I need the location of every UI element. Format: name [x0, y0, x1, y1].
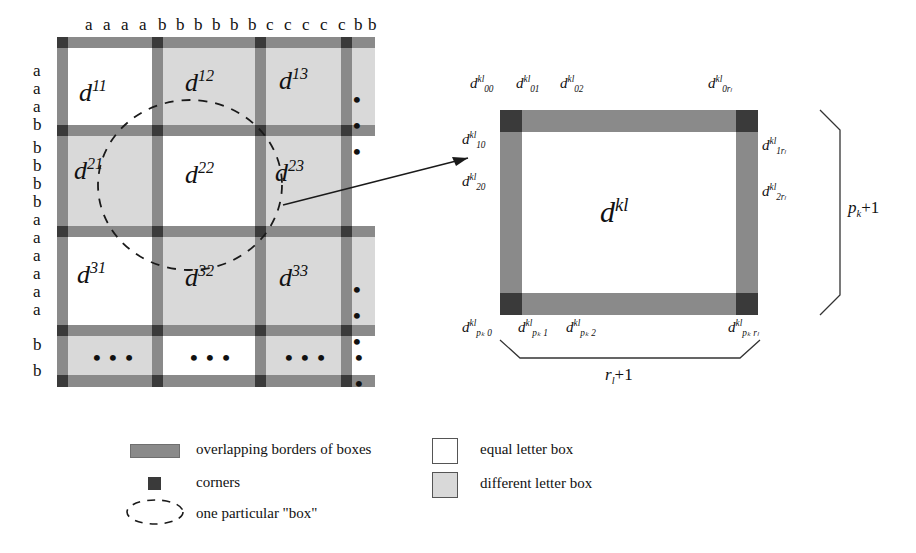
legend-label-equal-letter-box: equal letter box [480, 441, 573, 458]
legend-swatch-one-particular-box [0, 0, 916, 553]
legend-swatch-equal-letter-box [432, 438, 458, 464]
legend-swatch-different-letter-box [432, 472, 458, 498]
legend-label-different-letter-box: different letter box [480, 475, 592, 492]
figure-canvas: a a a a b b b b b b c c c c c b b a a a … [0, 0, 916, 553]
legend-label-one-particular-box: one particular "box" [196, 505, 317, 522]
